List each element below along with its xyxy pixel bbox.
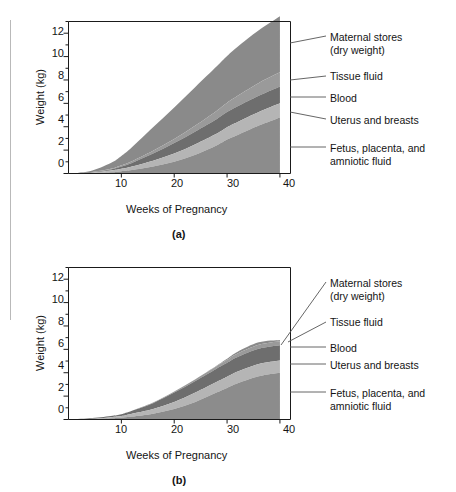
chart-b-leaders xyxy=(281,282,326,392)
leader-a-tissue-fluid xyxy=(290,76,326,80)
chart-b-svg xyxy=(0,246,456,492)
leader-b-maternal-stores xyxy=(281,282,326,345)
chart-panel-b: Weight (kg) 12 10 8 6 4 2 0 10 20 30 40 … xyxy=(0,246,456,492)
leader-a-uterus xyxy=(290,112,326,119)
leader-a-maternal-stores xyxy=(290,36,326,43)
chart-a-svg xyxy=(0,0,456,246)
chart-a-leaders xyxy=(290,36,326,147)
chart-panel-a: Weight (kg) 12 10 8 6 4 2 0 10 20 30 40 … xyxy=(0,0,456,246)
leader-b-tissue-fluid xyxy=(288,322,326,342)
chart-b-areas xyxy=(69,340,280,420)
chart-a-areas xyxy=(69,16,280,173)
